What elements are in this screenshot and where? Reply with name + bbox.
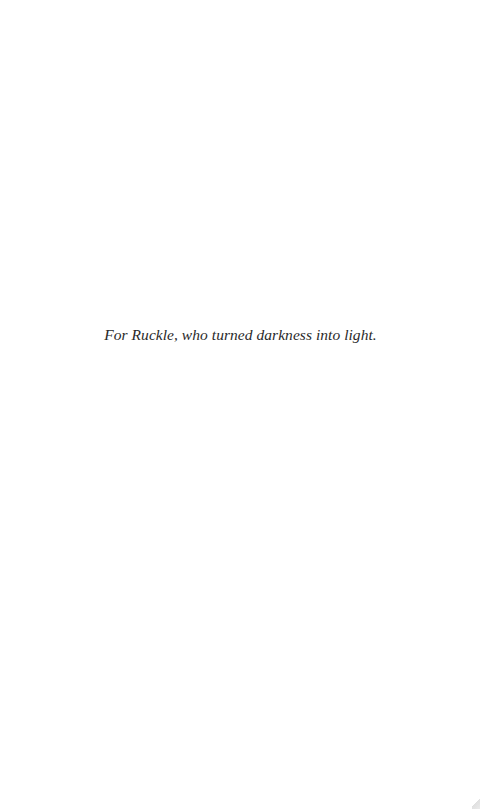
page-curl-icon [472,799,480,809]
dedication-text: For Ruckle, who turned darkness into lig… [0,326,481,344]
book-page: For Ruckle, who turned darkness into lig… [0,0,481,810]
